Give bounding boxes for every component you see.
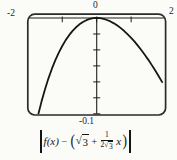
caption-plus: + [91,136,97,147]
abs-bar-right [129,130,130,153]
caption: f(x) − ( √3 + 1 2√3 x ) [0,127,171,155]
caption-x-var: x [116,135,121,147]
fraction-denominator: 2√3 [101,140,114,151]
x-zero-label: 0 [93,1,98,11]
den-radicand: 3 [108,141,113,151]
caption-lparen: ( [70,134,75,148]
fraction-numerator: 1 [104,131,110,140]
radicand: 3 [82,134,89,148]
x-min-label: -2 [7,9,15,19]
caption-rparen: ) [122,134,127,148]
figure: -2 0 2 -0.1 f(x) − ( √3 + 1 2√3 x ) [0,0,177,160]
sqrt-three: √3 [76,134,89,148]
error-curve [38,18,162,115]
caption-f-term: f(x) [44,135,59,147]
caption-fraction: 1 2√3 [101,131,114,151]
abs-bar-left [40,130,41,153]
caption-minus: − [61,136,67,147]
y-min-label: -0.1 [0,117,173,127]
x-max-label: 2 [169,7,174,17]
